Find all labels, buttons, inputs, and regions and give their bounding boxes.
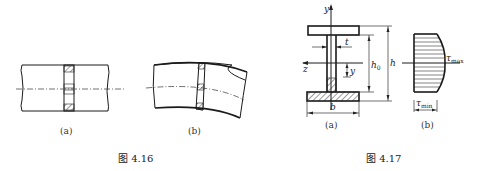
figure-canvas: (a) (b) 图 4.16 y z (0, 0, 480, 171)
thickness-label: t (345, 37, 349, 47)
fig-4-17a-label: (a) (325, 120, 337, 130)
fig-4-16a-label: (a) (60, 126, 72, 136)
fig-4-17b-label: (b) (421, 120, 434, 130)
h0-label: h0 (371, 60, 381, 71)
fig-4-16a-straight-beam: (a) (16, 65, 124, 136)
fig-4-16b-label: (b) (188, 126, 201, 136)
b-label: b (330, 102, 336, 112)
z-axis-label: z (302, 64, 308, 74)
h-label: h (390, 58, 396, 68)
fig-4-16b-bent-beam: (b) (146, 63, 247, 137)
y-distance-label: y (349, 66, 356, 76)
tau-max-label: τmax (446, 53, 464, 64)
fig-4-17b-shear-distribution: τmax τmin (b) (402, 34, 464, 130)
fig-4-17-caption: 图 4.17 (366, 153, 401, 164)
tau-min-label: τmin (416, 98, 433, 109)
y-axis-label: y (323, 4, 330, 14)
fig-4-17a-i-beam-section: y z t y h0 (302, 4, 396, 130)
fig-4-16-caption: 图 4.16 (118, 153, 153, 164)
